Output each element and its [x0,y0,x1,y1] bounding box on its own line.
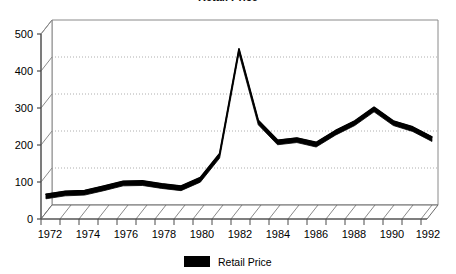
y-tick-label: 300 [15,102,33,114]
x-tick-label: 1988 [342,228,366,240]
x-tick-label: 1992 [416,228,440,240]
x-tick-label: 1982 [228,228,252,240]
x-axis-tick-labels: 1972 1974 1976 1978 1980 1982 1984 1986 … [38,228,440,240]
legend-color-swatch [184,256,210,267]
y-tick-label: 0 [27,213,33,225]
x-tick-label: 1980 [190,228,214,240]
chart-title-clipped: Retail Price [0,0,456,6]
y-axis-tick-labels: 0 100 200 300 400 500 [15,28,33,225]
plot-floor [41,205,438,219]
chart-title: Retail Price [0,0,456,3]
x-tick-label: 1986 [304,228,328,240]
chart-svg: 0 100 200 300 400 500 [0,0,456,274]
y-tick-label: 400 [15,65,33,77]
chart-container: Retail Price [0,0,456,274]
x-tick-label: 1974 [76,228,100,240]
x-tick-label: 1976 [114,228,138,240]
plot-left-wall [41,20,52,219]
y-tick-label: 100 [15,176,33,188]
y-axis [37,34,41,219]
y-tick-label: 200 [15,139,33,151]
x-tick-label: 1972 [38,228,62,240]
legend-label: Retail Price [218,256,272,268]
chart-legend: Retail Price [184,256,272,268]
x-tick-label: 1990 [380,228,404,240]
x-tick-label: 1984 [266,228,290,240]
x-axis [41,219,427,225]
x-tick-label: 1978 [152,228,176,240]
y-tick-label: 500 [15,28,33,40]
